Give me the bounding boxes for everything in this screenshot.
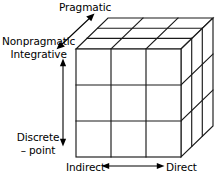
label-discrete-text: Discrete [17,131,60,143]
label-direct: Direct [166,161,197,174]
label-indirect: Indirect [66,161,105,174]
label-discrete-point: Discrete – point [10,131,66,156]
label-nonpragmatic-text: Nonpragmatic [2,35,75,47]
label-integrative-text: Integrative [2,48,75,61]
label-nonpragmatic-integrative: Nonpragmatic Integrative [2,35,75,60]
cube-geometry [76,18,213,157]
cube-front-face [76,49,181,157]
label-point-text: – point [10,144,66,157]
label-pragmatic: Pragmatic [59,1,111,14]
directness-axis-arrow [102,163,165,169]
cube-diagram-figure: Pragmatic Nonpragmatic Integrative Discr… [0,0,221,178]
